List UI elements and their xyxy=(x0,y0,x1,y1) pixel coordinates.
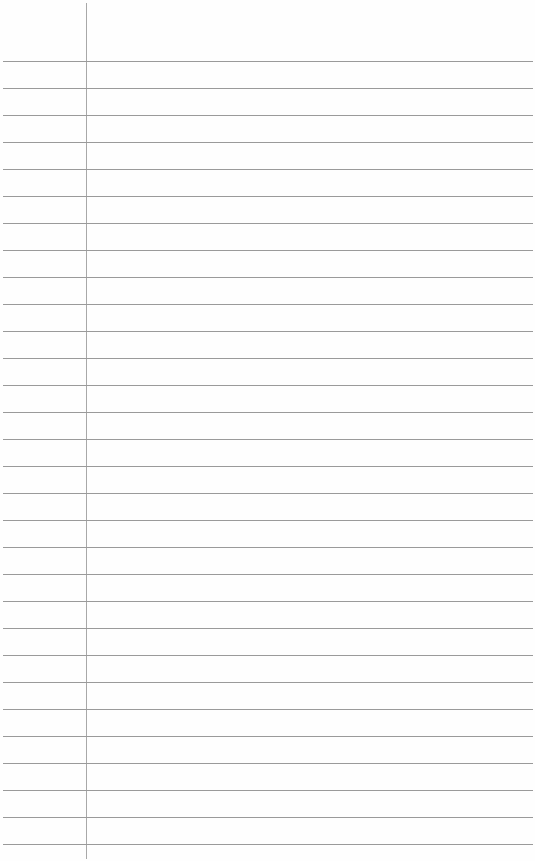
ruled-line xyxy=(3,331,533,332)
ruled-line xyxy=(3,790,533,791)
ruled-line xyxy=(3,439,533,440)
ruled-line xyxy=(3,223,533,224)
ruled-line xyxy=(3,88,533,89)
ruled-line xyxy=(3,628,533,629)
ruled-line xyxy=(3,412,533,413)
ruled-line xyxy=(3,844,533,845)
ruled-line xyxy=(3,466,533,467)
ruled-line xyxy=(3,736,533,737)
ruled-line xyxy=(3,520,533,521)
ruled-line xyxy=(3,817,533,818)
ruled-line xyxy=(3,655,533,656)
ruled-line xyxy=(3,763,533,764)
ruled-line xyxy=(3,547,533,548)
lined-paper xyxy=(0,0,535,861)
ruled-line xyxy=(3,61,533,62)
ruled-line xyxy=(3,385,533,386)
ruled-line xyxy=(3,142,533,143)
ruled-line xyxy=(3,169,533,170)
ruled-line xyxy=(3,250,533,251)
ruled-line xyxy=(3,358,533,359)
ruled-line xyxy=(3,115,533,116)
ruled-line xyxy=(3,601,533,602)
ruled-line xyxy=(3,682,533,683)
ruled-line xyxy=(3,709,533,710)
ruled-line xyxy=(3,277,533,278)
ruled-line xyxy=(3,493,533,494)
ruled-line xyxy=(3,196,533,197)
ruled-line xyxy=(3,304,533,305)
ruled-line xyxy=(3,574,533,575)
margin-line xyxy=(86,3,87,859)
